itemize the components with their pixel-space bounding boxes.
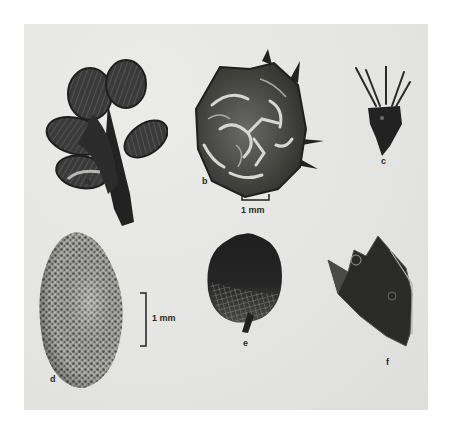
calyx-shoot-icon <box>38 44 168 229</box>
scale-bar-icon <box>140 292 148 348</box>
scale-bar-icon <box>241 194 271 202</box>
specimen-a <box>38 44 168 229</box>
label-c: c <box>381 157 386 166</box>
scale-bar-vertical <box>140 292 148 348</box>
photo-plate: a <box>24 24 428 410</box>
veined-leaf-icon <box>204 232 286 334</box>
label-f: f <box>386 358 389 367</box>
speckled-seed-icon <box>36 230 128 390</box>
angular-fragment-icon <box>326 234 416 350</box>
scale-label-vertical: 1 mm <box>152 314 176 323</box>
specimen-c <box>354 66 414 166</box>
scale-bar-horizontal <box>241 194 271 202</box>
specimen-d <box>36 230 128 390</box>
label-e: e <box>243 339 248 348</box>
spiny-fruit-icon <box>190 49 325 199</box>
scale-label-horizontal: 1 mm <box>241 206 265 215</box>
label-d: d <box>50 375 56 384</box>
specimen-e <box>204 232 286 334</box>
specimen-f <box>326 234 416 350</box>
specimen-b <box>190 49 325 199</box>
label-a: a <box>85 177 90 186</box>
label-b: b <box>202 177 208 186</box>
awned-fruit-icon <box>354 66 414 166</box>
